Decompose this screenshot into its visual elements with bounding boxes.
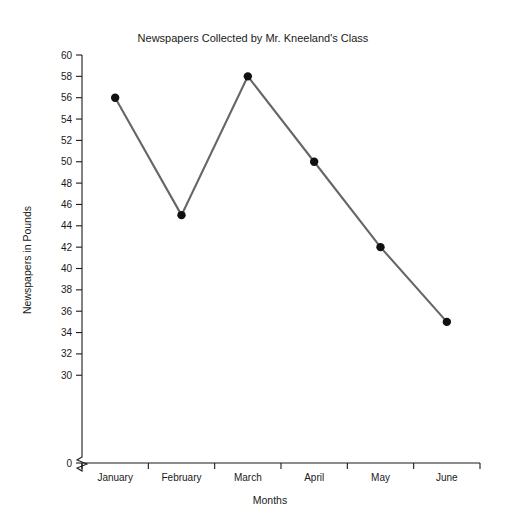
chart-container: Newspapers Collected by Mr. Kneeland's C… bbox=[0, 0, 506, 532]
y-tick-label: 36 bbox=[61, 306, 73, 317]
y-tick-label: 46 bbox=[61, 199, 73, 210]
x-tick-label-may: May bbox=[371, 472, 390, 483]
data-series bbox=[111, 72, 451, 326]
chart-title: Newspapers Collected by Mr. Kneeland's C… bbox=[138, 32, 369, 44]
y-tick-label-zero: 0 bbox=[66, 458, 72, 469]
x-tick-label-january: January bbox=[97, 472, 133, 483]
y-tick-label: 34 bbox=[61, 327, 73, 338]
y-tick-label: 48 bbox=[61, 178, 73, 189]
y-tick-label: 42 bbox=[61, 242, 73, 253]
x-tick-label-april: April bbox=[304, 472, 324, 483]
y-tick-label: 52 bbox=[61, 135, 73, 146]
y-tick-label: 40 bbox=[61, 263, 73, 274]
y-tick-label: 32 bbox=[61, 348, 73, 359]
data-point-june bbox=[443, 318, 451, 326]
y-tick-label: 56 bbox=[61, 92, 73, 103]
y-tick-label: 58 bbox=[61, 71, 73, 82]
y-tick-label: 54 bbox=[61, 114, 73, 125]
y-axis-title: Newspapers in Pounds bbox=[21, 206, 33, 314]
data-point-may bbox=[376, 243, 384, 251]
y-tick-label: 44 bbox=[61, 220, 73, 231]
y-tick-label: 50 bbox=[61, 156, 73, 167]
x-tick-label-june: June bbox=[436, 472, 458, 483]
line-chart: Newspapers Collected by Mr. Kneeland's C… bbox=[0, 0, 506, 532]
data-point-april bbox=[310, 158, 318, 166]
data-point-february bbox=[177, 211, 185, 219]
y-tick-label: 38 bbox=[61, 284, 73, 295]
data-point-march bbox=[244, 72, 252, 80]
y-tick-label: 30 bbox=[61, 370, 73, 381]
y-axis: 605856545250484644424038363432300 bbox=[61, 50, 87, 472]
data-point-january bbox=[111, 94, 119, 102]
data-line-path bbox=[115, 76, 447, 322]
x-tick-label-february: February bbox=[161, 472, 201, 483]
x-axis: JanuaryFebruaryMarchAprilMayJune bbox=[82, 463, 480, 483]
x-axis-title: Months bbox=[253, 494, 287, 506]
y-tick-label: 60 bbox=[61, 50, 73, 61]
x-tick-label-march: March bbox=[234, 472, 262, 483]
